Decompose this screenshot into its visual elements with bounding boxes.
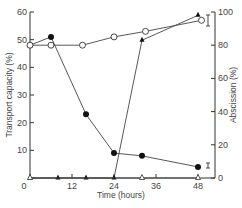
y2-tick-label: 0 (218, 173, 223, 183)
chart: 102030405060020406080100012243648 Time (… (0, 0, 242, 208)
series-layer (27, 12, 205, 180)
open-circle-marker (27, 42, 33, 48)
x-tick-label: 12 (67, 181, 77, 191)
open-circle-marker (80, 42, 86, 48)
filled-triangle-marker (84, 175, 89, 180)
annotations (206, 15, 210, 168)
y-tick-label: 30 (17, 90, 27, 100)
filled-circle-marker (83, 111, 89, 117)
y-axis-title: Transport capacity (%) (4, 52, 14, 137)
filled-circle-marker (111, 150, 117, 156)
y2-tick-label: 100 (218, 7, 233, 17)
filled-circle-marker (139, 153, 145, 159)
series-filled-circle (27, 34, 201, 170)
y-tick-label: 20 (17, 118, 27, 128)
filled-circle-marker (195, 164, 201, 170)
open-circle-marker (199, 17, 205, 23)
x-tick-label: 0 (21, 181, 26, 191)
y2-axis-title: Abscission (%) (228, 67, 238, 123)
x-tick-label: 48 (193, 181, 203, 191)
open-circle-marker (111, 34, 117, 40)
open-triangle-marker (28, 175, 33, 180)
error-bar (206, 15, 210, 26)
y2-tick-label: 20 (218, 140, 228, 150)
y-tick-label: 10 (17, 145, 27, 155)
y2-tick-label: 40 (218, 107, 228, 117)
filled-triangle-marker (56, 175, 61, 180)
open-circle-marker (48, 42, 54, 48)
filled-triangle-marker (196, 12, 201, 17)
y-tick-label: 40 (17, 62, 27, 72)
y2-tick-label: 60 (218, 73, 228, 83)
open-triangle-marker (196, 175, 201, 180)
open-triangle-marker (140, 175, 145, 180)
x-tick-label: 36 (151, 181, 161, 191)
series-open-circle (27, 17, 205, 48)
x-axis-title: Time (hours) (97, 190, 145, 200)
y2-tick-label: 80 (218, 40, 228, 50)
y-tick-label: 60 (17, 7, 27, 17)
filled-circle-marker (48, 34, 54, 40)
filled-triangle-marker (112, 175, 117, 180)
error-bar (206, 163, 210, 168)
open-circle-marker (143, 28, 149, 34)
y-tick-label: 50 (17, 35, 27, 45)
